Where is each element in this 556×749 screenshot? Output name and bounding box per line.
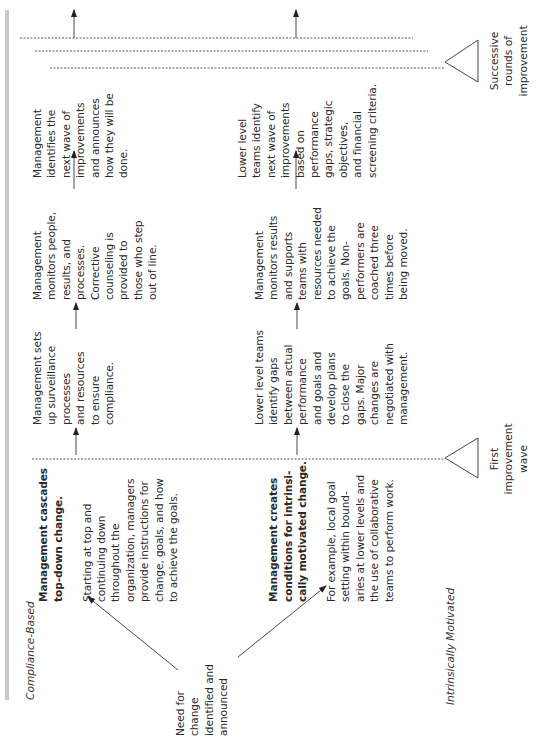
intrinsic-step-1: Management creates conditions for intrin… (252, 461, 410, 602)
first-wave-label: First improvement wave (487, 414, 530, 504)
successive-triangle-icon (445, 40, 478, 82)
row-label-intrinsic: Intrinsically Motivated (444, 588, 456, 705)
successive-dotted-lines (20, 38, 445, 68)
compliance-step-1-body: Starting at top and continuing down thro… (80, 468, 181, 602)
compliance-step-2: Management sets up surveillance processe… (30, 332, 116, 425)
compliance-step-3: Management monitors people, results, and… (30, 212, 160, 300)
intrinsic-step-1-heading: Management creates conditions for intrin… (266, 461, 309, 602)
compliance-step-1-heading: Management cascades top-down change. (36, 468, 65, 602)
row-label-compliance: Compliance-Based (24, 601, 36, 700)
intrinsic-step-2: Lower level teams identify gaps between … (252, 330, 410, 425)
intrinsic-step-4: Lower level teams identify next wave of … (235, 84, 379, 178)
compliance-step-4: Management identifies the next wave of i… (30, 93, 131, 178)
successive-rounds-label: Successive rounds of improvement (487, 16, 530, 106)
intrinsic-step-1-body: For example, local goal setting within b… (324, 461, 396, 602)
first-wave-triangle-icon (445, 438, 478, 478)
diagram-canvas: Compliance-Based Intrinsically Motivated… (0, 0, 556, 749)
arrow-to-compliance (88, 597, 178, 670)
compliance-step-1: Management cascades top-down change. Sta… (22, 468, 195, 602)
intrinsic-step-3: Management monitors results and supports… (252, 207, 410, 300)
start-node-label: Need for change identified and announced (173, 664, 231, 736)
